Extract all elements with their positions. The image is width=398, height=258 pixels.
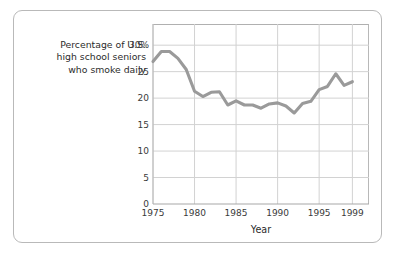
y-axis-caption: Percentage of U.S. high school seniors w… <box>22 39 146 76</box>
y-tick-label-25: 25 <box>138 67 149 77</box>
x-tick-label-1975: 1975 <box>142 208 165 218</box>
x-tick-label-1999: 1999 <box>341 208 364 218</box>
y-axis-caption-line-2: high school seniors <box>22 51 146 63</box>
x-tick-label-1995: 1995 <box>308 208 331 218</box>
x-tick-label-1985: 1985 <box>225 208 248 218</box>
y-tick-label-5: 5 <box>143 173 149 183</box>
vertical-gridlines <box>153 24 352 204</box>
chart-plot-area: 051015202530% 197519801985199019951999 Y… <box>153 24 369 204</box>
x-tick-label-1990: 1990 <box>266 208 289 218</box>
y-tick-label-15: 15 <box>138 120 149 130</box>
smoking-rate-line <box>153 52 352 113</box>
y-axis-caption-line-1: Percentage of U.S. <box>22 39 146 51</box>
y-tick-label-10: 10 <box>138 146 149 156</box>
horizontal-gridlines <box>153 45 369 177</box>
figure-card: Percentage of U.S. high school seniors w… <box>13 10 382 243</box>
y-tick-label-30%: 30% <box>129 40 149 50</box>
x-tick-label-1980: 1980 <box>183 208 206 218</box>
y-axis-caption-line-3: who smoke daily <box>22 64 146 76</box>
y-tick-label-20: 20 <box>138 93 149 103</box>
line-chart-svg <box>153 24 369 204</box>
x-axis-title: Year <box>153 224 369 235</box>
